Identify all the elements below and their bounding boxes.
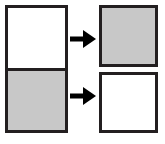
source-rectangle bbox=[5, 5, 68, 133]
swap-diagram bbox=[0, 0, 165, 144]
result-top-box bbox=[99, 5, 158, 67]
arrow-right-icon-bottom bbox=[70, 85, 96, 107]
arrow-right-icon-top bbox=[70, 28, 96, 50]
result-bottom-box bbox=[99, 72, 158, 133]
source-bottom-half bbox=[8, 71, 65, 131]
source-top-half bbox=[8, 8, 65, 71]
